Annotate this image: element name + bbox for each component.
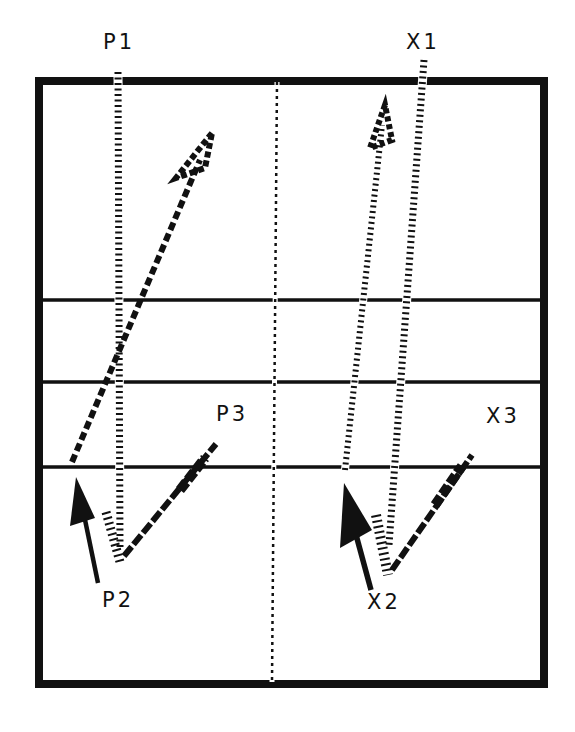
p2-arrow [70,477,98,583]
court-diagram [0,0,575,732]
label-p2: P2 [102,588,134,612]
label-p1: P1 [103,30,135,54]
center-divider [272,82,277,682]
diagram-canvas: P1 P3 P2 X1 X3 X2 [0,0,575,732]
p-pattern-paths [72,72,216,562]
x2-arrow [340,483,372,590]
label-x3: X3 [486,404,520,428]
x-pattern-paths [345,60,472,575]
label-x2: X2 [367,590,401,614]
label-x1: X1 [406,30,440,54]
label-p3: P3 [216,402,248,426]
